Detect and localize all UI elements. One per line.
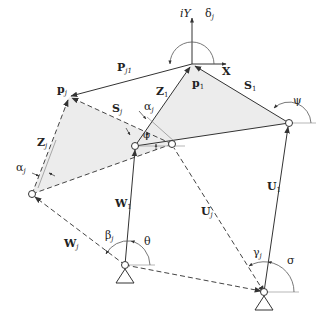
label-alpha-j-top: αj [144,101,154,114]
label-Z-1: Z1 [156,86,169,99]
label-delta-j: δj [205,8,214,21]
label-S-j-main: S [112,102,120,115]
label-p-1: p1 [192,78,204,91]
label-sigma: σ [287,255,295,266]
label-delta-j-main: δ [205,7,212,20]
label-S-1: S1 [244,80,256,93]
diagram-graphics [0,0,329,328]
coordinate-axes [170,18,226,64]
label-P-j1-sub: j1 [125,67,132,75]
label-U-1-main: U [267,180,277,193]
label-W-1-main: W [115,197,127,210]
label-Z-j: Zj [37,137,47,150]
label-delta-j-sub: j [212,13,214,21]
label-p-j: pj [57,84,67,97]
label-psi-main: ψ [293,94,302,107]
label-axis-y: iY [180,8,191,19]
label-S-1-main: S [244,79,252,92]
label-phi: φ [143,130,150,140]
label-W-j-sub: j [76,243,78,251]
label-U-1-sub: 1 [277,186,281,194]
label-theta: θ [144,236,151,247]
label-sigma-main: σ [287,254,295,267]
linkage-diagram: iY δj X Pj1 p1 pj Z1 S1 Sj αj Zj αj φ ψ … [0,0,329,328]
label-beta-j: βj [105,230,114,243]
label-P-j1: Pj1 [117,62,132,75]
label-alpha-j-left: αj [16,162,26,175]
label-Z-1-sub: 1 [164,91,168,99]
label-beta-j-sub: j [111,235,113,243]
label-p-1-main: p [192,77,200,90]
label-S-1-sub: 1 [252,85,256,93]
label-gamma-j-sub: j [260,252,262,260]
label-axis-y-text: iY [180,7,191,20]
joint-right [286,120,293,127]
label-W-j-main: W [64,237,76,250]
label-gamma-j-main: γ [253,246,260,259]
ground-support-left-icon [116,269,134,283]
joint-left [29,191,36,198]
label-U-j: Uj [201,206,213,219]
ground-pivot-left-joint [122,262,129,269]
label-phi-main: φ [143,129,150,140]
ground-link [125,265,261,291]
label-S-j: Sj [112,103,122,116]
joint-mid-right [169,141,176,148]
label-p-j-main: p [57,83,65,96]
label-p-j-sub: j [65,89,67,97]
label-Z-j-sub: j [45,142,47,150]
label-S-j-sub: j [120,108,122,116]
vector-Uj [174,148,264,292]
label-U-1: U1 [267,181,281,194]
label-axis-x: X [222,66,231,77]
label-U-j-sub: j [211,211,213,219]
vector-U1 [264,127,288,292]
label-Z-j-main: Z [37,136,45,149]
label-W-1-sub: 1 [127,203,131,211]
label-psi: ψ [293,95,302,106]
label-theta-main: θ [144,235,151,248]
label-axis-x-text: X [222,65,231,78]
label-gamma-j: γj [253,247,262,260]
label-alpha-j-top-sub: j [151,106,153,114]
label-Z-1-main: Z [156,85,164,98]
ground-support-right-icon [255,296,273,310]
label-U-j-main: U [201,205,211,218]
joint-mid-left [132,143,139,150]
label-W-j: Wj [64,238,79,251]
label-p-1-sub: 1 [200,83,204,91]
label-alpha-j-left-sub: j [23,167,25,175]
ground-pivot-right-joint [261,289,268,296]
label-W-1: W1 [115,198,132,211]
